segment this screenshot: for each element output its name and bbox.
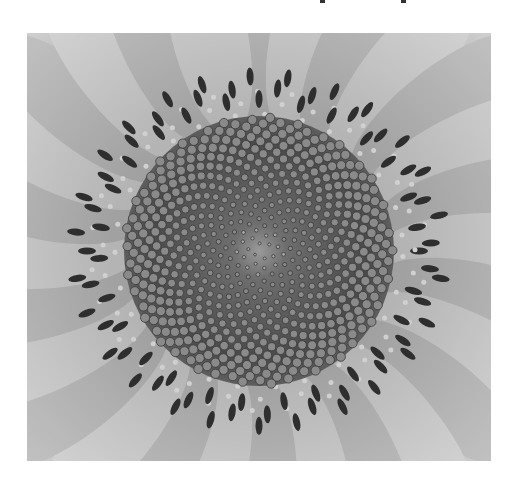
cropped-text-fragment xyxy=(401,0,406,3)
sunflower-photo xyxy=(27,33,491,461)
cropped-text-fragment xyxy=(320,0,325,3)
sunflower-illustration xyxy=(27,33,491,461)
